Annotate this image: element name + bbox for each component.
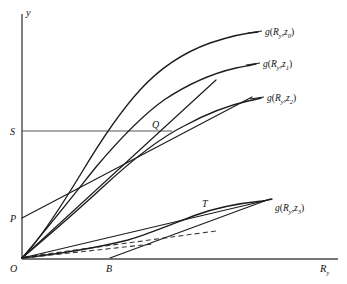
line-from-p-tangent [22, 97, 252, 218]
y-axis-label: y [25, 7, 31, 18]
tangent-from-b [110, 199, 270, 258]
label-q: Q [152, 119, 160, 130]
label-b: B [106, 263, 112, 274]
label-t: T [202, 198, 209, 209]
curve-label-z1: g(Ry,z1) [263, 59, 292, 71]
curve-g-z0 [22, 32, 258, 258]
curve-label-z0-close: ) [291, 27, 294, 38]
label-s: S [10, 126, 15, 137]
figure-container: y Ry O S P B Q T g(Ry,z0) g(Ry,z1) g(Ry,… [0, 0, 347, 284]
x-axis-label-sub: y [325, 269, 329, 276]
axes-group [22, 14, 338, 259]
curve-label-z2-close: ) [293, 93, 296, 104]
ray-origin-through-q [22, 80, 216, 258]
diagram-canvas: y Ry O S P B Q T g(Ry,z0) g(Ry,z1) g(Ry,… [0, 0, 347, 284]
curve-label-z3-close: ) [301, 203, 304, 214]
curve-label-z0: g(Ry,z0) [265, 27, 294, 39]
curves-group [22, 32, 261, 258]
curve-g-z1 [22, 64, 256, 258]
curve-label-z2: g(Ry,z2) [267, 93, 296, 105]
label-p: P [9, 213, 16, 224]
svg-text:Ry: Ry [319, 263, 329, 276]
curve-label-z1-close: ) [289, 59, 292, 70]
svg-text:g(Ry,z0): g(Ry,z0) [265, 27, 294, 39]
curve-g-z2 [22, 98, 261, 258]
label-origin: O [10, 263, 17, 274]
svg-text:g(Ry,z1): g(Ry,z1) [263, 59, 292, 71]
x-axis-label: Ry [319, 263, 329, 276]
curve-label-z3: g(Ry,z3) [275, 203, 304, 215]
svg-text:g(Ry,z2): g(Ry,z2) [267, 93, 296, 105]
svg-text:g(Ry,z3): g(Ry,z3) [275, 203, 304, 215]
label-leaders-group [246, 31, 264, 99]
